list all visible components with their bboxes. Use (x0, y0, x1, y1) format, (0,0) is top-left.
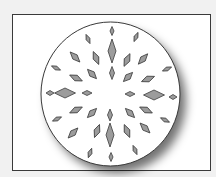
radial-diamond-pattern (0, 0, 216, 177)
